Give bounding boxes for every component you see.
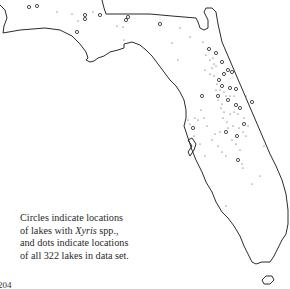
caption-line-4: of all 322 lakes in data set.: [20, 250, 165, 263]
caption-line-2: of lakes with Xyris spp.,: [20, 225, 165, 238]
caption-line-1: Circles indicate locations: [20, 212, 165, 225]
lake-dots: [56, 11, 264, 206]
genus-name: Xyris: [75, 225, 97, 236]
map-caption: Circles indicate locations of lakes with…: [20, 212, 165, 262]
caption-line-2-suffix: spp.,: [97, 225, 119, 236]
page-number: 204: [0, 280, 12, 289]
lake-circles: [27, 4, 253, 161]
caption-line-3: and dots indicate locations: [20, 237, 165, 250]
caption-line-2-prefix: of lakes with: [20, 225, 75, 236]
